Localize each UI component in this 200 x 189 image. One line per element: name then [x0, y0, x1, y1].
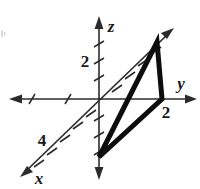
x-axis-label: x	[34, 169, 44, 188]
y-axis-positive-arrow-icon	[185, 95, 197, 104]
y-axis-label: y	[175, 74, 185, 93]
figure-container: z y x 2 2 4	[0, 0, 200, 189]
z-axis-negative-arrow-icon	[95, 167, 104, 180]
x-axis-negative-arrow-icon	[161, 28, 174, 39]
x-axis-ticks	[34, 47, 161, 167]
x-axis-positive-arrow-icon	[20, 166, 33, 177]
z-axis-positive-arrow-icon	[95, 16, 104, 29]
scan-artifact	[1, 30, 6, 37]
z-axis-tick-label-2: 2	[81, 52, 90, 71]
z-axis-label: z	[107, 17, 115, 36]
coordinate-diagram: z y x 2 2 4	[0, 0, 200, 189]
y-axis-tick-label-2: 2	[162, 103, 171, 122]
y-axis-negative-arrow-icon	[9, 95, 22, 104]
x-axis-tick-label-4: 4	[38, 131, 47, 150]
